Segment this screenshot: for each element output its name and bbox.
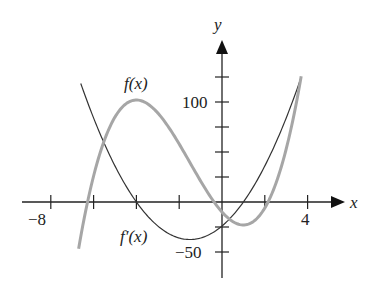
tick-marks [51, 77, 308, 252]
x-tick-label-4: 4 [301, 210, 310, 229]
y-axis-label: y [212, 15, 222, 34]
x-tick-label-neg8: −8 [28, 210, 46, 229]
y-tick-label-100: 100 [182, 93, 208, 112]
y-axis-arrow-icon [216, 40, 228, 54]
fprime-curve-label: f′(x) [120, 227, 148, 246]
x-axis-arrow-icon [331, 196, 345, 208]
y-tick-label-neg50: −50 [175, 243, 202, 262]
function-derivative-plot: x y −8 4 100 −50 f(x) f′(x) [0, 0, 377, 286]
x-axis-label: x [349, 193, 358, 212]
f-curve-label: f(x) [124, 74, 148, 93]
